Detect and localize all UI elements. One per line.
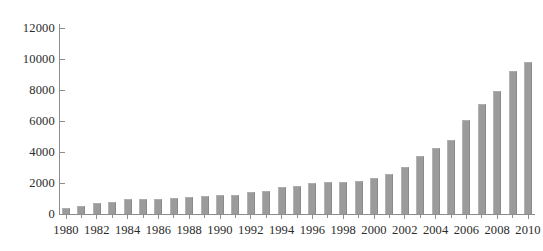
x-tick-1996 bbox=[312, 215, 313, 219]
y-tick-label-8000: 8000 bbox=[5, 84, 55, 97]
x-tick-1994 bbox=[281, 215, 282, 219]
x-tick-2008 bbox=[497, 215, 498, 219]
bar-2009 bbox=[509, 71, 517, 214]
y-tick-6000 bbox=[60, 121, 65, 122]
x-tick-1984 bbox=[127, 215, 128, 219]
x-tick-1995 bbox=[297, 215, 298, 218]
bar-2003 bbox=[416, 156, 424, 214]
bar-2002 bbox=[401, 167, 409, 214]
x-tick-label-2010: 2010 bbox=[509, 224, 543, 237]
x-tick-1989 bbox=[204, 215, 205, 218]
bar-chart: 020004000600080001000012000 198019821984… bbox=[0, 0, 543, 251]
x-tick-2009 bbox=[512, 215, 513, 218]
bar-2001 bbox=[385, 174, 393, 214]
y-tick-label-0: 0 bbox=[5, 208, 55, 221]
bar-1985 bbox=[139, 199, 147, 214]
x-tick-1988 bbox=[189, 215, 190, 219]
x-tick-1990 bbox=[220, 215, 221, 219]
x-tick-1991 bbox=[235, 215, 236, 218]
x-tick-1981 bbox=[81, 215, 82, 218]
x-tick-2005 bbox=[451, 215, 452, 218]
x-tick-1982 bbox=[96, 215, 97, 219]
x-tick-1983 bbox=[112, 215, 113, 218]
bar-1988 bbox=[185, 197, 193, 214]
bar-1998 bbox=[339, 182, 347, 214]
y-tick-4000 bbox=[60, 152, 65, 153]
x-tick-2002 bbox=[404, 215, 405, 219]
bar-1982 bbox=[93, 203, 101, 214]
bar-1991 bbox=[231, 195, 239, 214]
bar-1989 bbox=[201, 196, 209, 214]
x-tick-2001 bbox=[389, 215, 390, 218]
bar-2007 bbox=[478, 104, 486, 214]
x-tick-1997 bbox=[327, 215, 328, 218]
bar-1987 bbox=[170, 198, 178, 214]
y-tick-label-2000: 2000 bbox=[5, 177, 55, 190]
y-tick-label-6000: 6000 bbox=[5, 115, 55, 128]
x-tick-1999 bbox=[358, 215, 359, 218]
bar-1981 bbox=[77, 206, 85, 214]
y-tick-12000 bbox=[60, 28, 65, 29]
bar-1997 bbox=[324, 182, 332, 214]
x-tick-1993 bbox=[266, 215, 267, 218]
bar-1995 bbox=[293, 186, 301, 214]
bar-1999 bbox=[355, 181, 363, 214]
x-tick-1987 bbox=[173, 215, 174, 218]
x-tick-2007 bbox=[481, 215, 482, 218]
bar-2005 bbox=[447, 140, 455, 214]
bar-2010 bbox=[524, 62, 532, 214]
bar-1993 bbox=[262, 191, 270, 214]
y-tick-label-4000: 4000 bbox=[5, 146, 55, 159]
x-tick-2004 bbox=[435, 215, 436, 219]
x-tick-1998 bbox=[343, 215, 344, 219]
x-tick-1986 bbox=[158, 215, 159, 219]
bar-2008 bbox=[493, 91, 501, 214]
x-tick-2010 bbox=[528, 215, 529, 219]
x-tick-1985 bbox=[143, 215, 144, 218]
y-tick-8000 bbox=[60, 90, 65, 91]
bar-2006 bbox=[462, 120, 470, 214]
bar-2000 bbox=[370, 178, 378, 214]
y-tick-label-10000: 10000 bbox=[5, 53, 55, 66]
x-tick-1980 bbox=[66, 215, 67, 219]
bar-1980 bbox=[62, 208, 70, 214]
bar-2004 bbox=[432, 148, 440, 214]
bar-1986 bbox=[154, 199, 162, 215]
x-tick-2000 bbox=[374, 215, 375, 219]
y-tick-label-12000: 12000 bbox=[5, 22, 55, 35]
bar-1984 bbox=[124, 199, 132, 215]
x-tick-2003 bbox=[420, 215, 421, 218]
bar-1992 bbox=[247, 192, 255, 214]
y-axis-line bbox=[59, 24, 60, 215]
x-tick-1992 bbox=[250, 215, 251, 219]
bar-1996 bbox=[308, 183, 316, 214]
bar-1994 bbox=[278, 187, 286, 214]
bar-1990 bbox=[216, 195, 224, 214]
bar-1983 bbox=[108, 202, 116, 214]
y-tick-2000 bbox=[60, 183, 65, 184]
y-tick-10000 bbox=[60, 59, 65, 60]
x-tick-2006 bbox=[466, 215, 467, 219]
